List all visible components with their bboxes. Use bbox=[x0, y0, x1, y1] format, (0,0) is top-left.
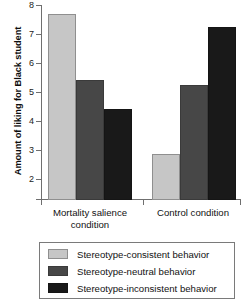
black-swatch-icon bbox=[48, 283, 68, 293]
bars-layer bbox=[0, 0, 252, 232]
bar-mortality-salience-consistent bbox=[48, 14, 76, 200]
legend-label-stereotype-consistent: Stereotype-consistent behavior bbox=[77, 249, 209, 260]
legend-item-stereotype-inconsistent: Stereotype-inconsistent behavior bbox=[48, 281, 217, 295]
x-axis-label-mortality-salience-line1: Mortality salience bbox=[33, 207, 147, 219]
light-gray-swatch-icon bbox=[48, 249, 68, 259]
chart-legend: Stereotype-consistent behavior Stereotyp… bbox=[39, 242, 235, 299]
bar-mortality-salience-inconsistent bbox=[104, 109, 132, 200]
dark-gray-swatch-icon bbox=[48, 266, 68, 276]
x-axis-label-mortality-salience: Mortality salience condition bbox=[33, 207, 147, 230]
bar-control-neutral bbox=[180, 85, 208, 200]
legend-label-stereotype-inconsistent: Stereotype-inconsistent behavior bbox=[77, 283, 217, 294]
x-axis-label-mortality-salience-line2: condition bbox=[33, 219, 147, 231]
bar-mortality-salience-neutral bbox=[76, 80, 104, 200]
plot-area: Amount of liking for Black student 8 7 6… bbox=[0, 0, 252, 232]
bar-control-inconsistent bbox=[208, 27, 236, 200]
legend-item-stereotype-consistent: Stereotype-consistent behavior bbox=[48, 247, 209, 261]
legend-item-stereotype-neutral: Stereotype-neutral behavior bbox=[48, 264, 195, 278]
legend-label-stereotype-neutral: Stereotype-neutral behavior bbox=[77, 266, 195, 277]
x-axis-label-control-condition: Control condition bbox=[145, 207, 241, 219]
bar-chart-figure: Amount of liking for Black student 8 7 6… bbox=[0, 0, 252, 308]
bar-control-consistent bbox=[152, 154, 180, 200]
